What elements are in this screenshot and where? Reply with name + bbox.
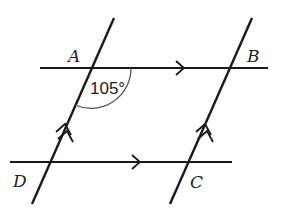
line-BC [170,18,252,204]
geometry-diagram: A B C D 105° [0,0,282,215]
point-label-C: C [190,172,203,192]
point-label-A: A [66,46,80,66]
point-label-B: B [246,46,260,66]
angle-label: 105° [90,79,125,98]
double-arrow-icon [56,124,73,142]
point-label-D: D [12,171,27,191]
